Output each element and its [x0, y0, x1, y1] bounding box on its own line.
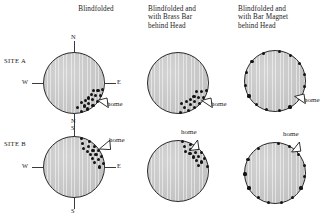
- data-point: [303, 164, 306, 167]
- home-label: home: [283, 130, 299, 138]
- north-tick: [74, 125, 75, 137]
- compass-label-east: E: [117, 162, 121, 169]
- home-arrow-icon: [290, 140, 302, 153]
- data-point: [98, 165, 101, 168]
- compass-label-west: W: [22, 162, 28, 169]
- data-point: [192, 155, 195, 158]
- panel-site-b-blindfolded: N S W E home: [0, 0, 140, 218]
- data-point: [183, 145, 186, 148]
- data-point: [82, 147, 85, 150]
- data-point: [195, 159, 198, 162]
- data-point: [243, 172, 246, 175]
- data-point: [247, 186, 250, 189]
- data-point: [291, 196, 294, 199]
- data-point: [277, 142, 280, 145]
- home-label: home: [181, 128, 197, 136]
- west-tick: [32, 167, 44, 168]
- data-point: [91, 149, 94, 152]
- data-point: [81, 142, 84, 145]
- compass-label-south: S: [71, 207, 75, 214]
- panel-site-b-brass-bar: home: [140, 0, 235, 218]
- home-arrow-icon: [188, 138, 200, 151]
- data-point: [299, 186, 302, 189]
- east-tick: [104, 167, 116, 168]
- compass-label-north: N: [71, 117, 76, 124]
- orientation-figure: Blindfolded Blindfolded and with Brass B…: [0, 0, 322, 218]
- data-point: [184, 150, 187, 153]
- data-point: [88, 140, 91, 143]
- data-point: [200, 160, 203, 163]
- home-label: home: [109, 136, 125, 144]
- data-point: [197, 164, 200, 167]
- panel-site-b-bar-magnet: home: [235, 0, 322, 218]
- data-point: [203, 157, 206, 160]
- data-point: [80, 137, 83, 140]
- data-point: [97, 158, 100, 161]
- data-point: [94, 153, 97, 156]
- data-point: [280, 201, 283, 204]
- data-point: [257, 147, 260, 150]
- data-point: [303, 175, 306, 178]
- data-point: [100, 155, 103, 158]
